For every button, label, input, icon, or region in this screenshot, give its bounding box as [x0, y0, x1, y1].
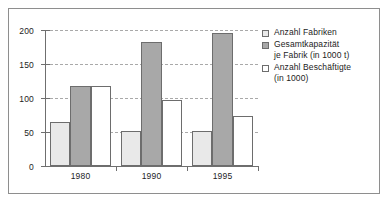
plot-area: 050100150200 198019901995: [45, 30, 258, 166]
y-axis-tick-label: 200: [19, 27, 34, 36]
y-axis-tick: 150: [41, 64, 50, 65]
x-axis-line: [45, 166, 258, 167]
y-axis-tick-label: 0: [29, 163, 34, 172]
bar: [50, 122, 71, 166]
x-axis-tick-label: 1980: [71, 172, 91, 181]
legend-label-line2: (in 1000): [274, 73, 351, 85]
bar: [121, 131, 142, 166]
x-axis-tick: [258, 166, 259, 171]
legend-swatch-icon: [262, 42, 269, 49]
legend-label-line1: Gesamtkapazität: [274, 39, 339, 49]
bar: [141, 42, 162, 166]
x-axis-tick-label: 1995: [213, 172, 233, 181]
legend-label-line2: je Fabrik (in 1000 t): [274, 50, 349, 62]
y-axis-tick: 50: [41, 132, 50, 133]
gridline: [45, 30, 258, 31]
bar: [233, 116, 254, 166]
bar: [162, 100, 183, 166]
y-axis-tick: 100: [41, 98, 50, 99]
chart-legend: Anzahl Fabriken Gesamtkapazität je Fabri…: [262, 27, 374, 85]
bar: [212, 33, 233, 166]
legend-swatch-icon: [262, 65, 269, 72]
legend-swatch-icon: [262, 30, 269, 37]
y-axis-tick-label: 50: [24, 129, 34, 138]
x-axis-tick: [116, 166, 117, 171]
bar: [70, 86, 91, 166]
y-axis-tick-label: 100: [19, 95, 34, 104]
legend-label-line1: Anzahl Fabriken: [274, 27, 337, 37]
legend-item: Anzahl Fabriken: [262, 27, 374, 39]
legend-label: Anzahl Beschäftigte (in 1000): [274, 62, 351, 85]
legend-label-line1: Anzahl Beschäftigte: [274, 62, 351, 72]
x-axis-tick-label: 1990: [142, 172, 162, 181]
y-axis-tick-label: 150: [19, 61, 34, 70]
chart-figure: 050100150200 198019901995 Anzahl Fabrike…: [0, 0, 392, 211]
legend-label: Anzahl Fabriken: [274, 27, 337, 39]
legend-item: Anzahl Beschäftigte (in 1000): [262, 62, 374, 85]
y-axis-tick: 0: [41, 166, 50, 167]
legend-label: Gesamtkapazität je Fabrik (in 1000 t): [274, 39, 349, 62]
legend-item: Gesamtkapazität je Fabrik (in 1000 t): [262, 39, 374, 62]
y-axis-tick: 200: [41, 30, 50, 31]
bar: [91, 86, 112, 166]
bar: [192, 131, 213, 166]
x-axis-tick: [187, 166, 188, 171]
